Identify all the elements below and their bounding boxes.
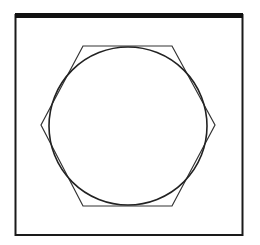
diagram-canvas [0, 0, 260, 245]
inscribed-circle [49, 47, 207, 205]
hexagon-shape [41, 46, 215, 206]
frame-top-bar [15, 13, 243, 18]
